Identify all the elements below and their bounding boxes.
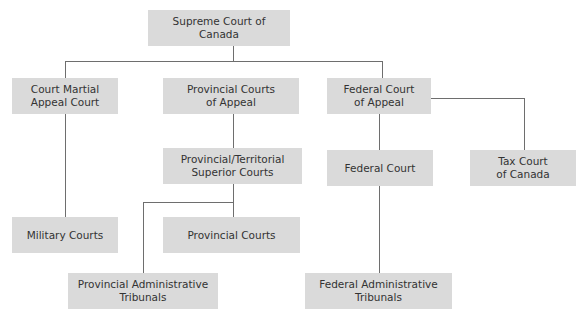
connector-supreme-down bbox=[233, 46, 234, 62]
node-court-martial-appeal-court: Court Martial Appeal Court bbox=[12, 78, 118, 114]
connector-superior-down bbox=[233, 184, 234, 217]
node-provincial-courts: Provincial Courts bbox=[163, 217, 300, 253]
court-hierarchy-diagram: Supreme Court of Canada Court Martial Ap… bbox=[0, 0, 584, 319]
node-military-courts: Military Courts bbox=[12, 217, 118, 253]
node-provincial-courts-of-appeal: Provincial Courts of Appeal bbox=[163, 78, 299, 114]
connector-to-court-martial bbox=[65, 61, 66, 78]
connector-federal-court-to-fed-admin bbox=[379, 186, 380, 273]
connector-court-martial-to-military bbox=[65, 114, 66, 217]
connector-prov-appeal-to-superior bbox=[233, 114, 234, 148]
node-federal-administrative-tribunals: Federal Administrative Tribunals bbox=[305, 273, 452, 309]
node-supreme-court: Supreme Court of Canada bbox=[148, 10, 290, 46]
node-federal-court: Federal Court bbox=[327, 150, 433, 186]
connector-to-tax-court bbox=[524, 98, 525, 150]
connector-federal-appeal-to-federal-court bbox=[379, 114, 380, 150]
node-provincial-administrative-tribunals: Provincial Administrative Tribunals bbox=[68, 273, 218, 309]
connector-federal-appeal-right bbox=[431, 98, 525, 99]
node-federal-court-of-appeal: Federal Court of Appeal bbox=[327, 78, 431, 114]
node-provincial-territorial-superior-courts: Provincial/Territorial Superior Courts bbox=[163, 148, 302, 184]
node-tax-court-of-canada: Tax Court of Canada bbox=[470, 150, 576, 186]
connector-to-federal-appeal bbox=[382, 61, 383, 78]
connector-to-prov-admin bbox=[143, 202, 144, 273]
connector-top-horizontal bbox=[65, 61, 383, 62]
connector-superior-branch bbox=[143, 202, 234, 203]
